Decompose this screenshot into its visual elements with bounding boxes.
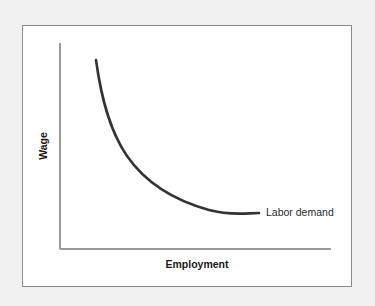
- labor-demand-curve: [96, 60, 259, 214]
- figure-panel: Wage Employment Labor demand: [22, 25, 352, 287]
- labor-demand-label: Labor demand: [266, 206, 334, 218]
- x-axis-title: Employment: [165, 258, 229, 270]
- y-axis-title: Wage: [37, 132, 49, 160]
- labor-demand-chart: Wage Employment Labor demand: [23, 26, 351, 286]
